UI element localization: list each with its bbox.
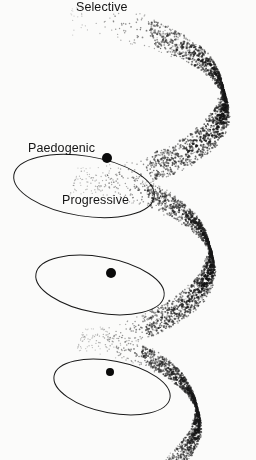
marker-dot-paedogenic (106, 268, 116, 278)
loop-outline-layer (0, 0, 256, 460)
helix-figure: Selective Paedogenic Progressive (0, 0, 256, 460)
label-paedogenic: Paedogenic (28, 142, 95, 155)
label-progressive: Progressive (62, 194, 129, 207)
label-selective: Selective (76, 1, 128, 14)
